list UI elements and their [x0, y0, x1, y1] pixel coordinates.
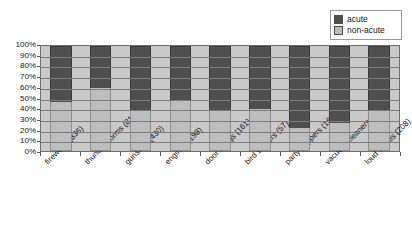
legend-label-non-acute: non-acute — [347, 26, 385, 35]
legend-swatch-non-acute — [334, 26, 343, 35]
legend-item-non-acute: non-acute — [334, 25, 397, 36]
stacked-bar[interactable] — [50, 46, 71, 151]
legend-label-acute: acute — [347, 15, 368, 24]
stacked-bar[interactable] — [289, 46, 310, 151]
y-axis-tick-label: 10% — [20, 137, 36, 145]
bar-segment-acute[interactable] — [130, 46, 151, 111]
bar-slot — [240, 46, 280, 151]
bar-segment-acute[interactable] — [368, 46, 389, 111]
bar-segment-non-acute[interactable] — [50, 102, 71, 151]
bar-segment-acute[interactable] — [329, 46, 350, 123]
bar-slot — [121, 46, 161, 151]
bar-segment-acute[interactable] — [170, 46, 191, 101]
bar-segment-non-acute[interactable] — [90, 88, 111, 151]
x-axis-labels: fireworks(836)thunderstorms (817)gunshot… — [0, 152, 411, 241]
legend-item-acute: acute — [334, 14, 397, 25]
y-axis-tick-label: 40% — [20, 105, 36, 113]
y-axis-tick-label: 60% — [20, 84, 36, 92]
bar-segment-non-acute[interactable] — [329, 123, 350, 151]
bar-segment-non-acute[interactable] — [209, 110, 230, 151]
bar-segment-acute[interactable] — [50, 46, 71, 102]
bar-slot — [41, 46, 81, 151]
y-axis-tick-label: 20% — [20, 127, 36, 135]
y-axis-tick-label: 30% — [20, 116, 36, 124]
legend-swatch-acute — [334, 15, 343, 24]
y-axis-tick-label: 50% — [20, 95, 36, 103]
bar-slot — [81, 46, 121, 151]
stacked-bar[interactable] — [170, 46, 191, 151]
bar-segment-non-acute[interactable] — [130, 111, 151, 151]
stacked-bar[interactable] — [209, 46, 230, 151]
y-axis-tick-label: 70% — [20, 73, 36, 81]
y-axis: 100%90%80%70%60%50%40%30%20%10%0% — [0, 40, 40, 157]
y-axis-tick-label: 100% — [16, 41, 36, 49]
stacked-bar[interactable] — [368, 46, 389, 151]
bar-group — [41, 46, 399, 151]
bar-slot — [160, 46, 200, 151]
bar-slot — [359, 46, 399, 151]
chart-legend: acute non-acute — [330, 10, 402, 40]
bar-slot — [200, 46, 240, 151]
plot-area — [40, 45, 400, 152]
bar-segment-acute[interactable] — [209, 46, 230, 110]
stacked-bar[interactable] — [329, 46, 350, 151]
stacked-bar[interactable] — [249, 46, 270, 151]
bar-segment-acute[interactable] — [289, 46, 310, 128]
bar-slot — [319, 46, 359, 151]
bar-segment-non-acute[interactable] — [170, 101, 191, 151]
stacked-bar[interactable] — [130, 46, 151, 151]
bar-segment-non-acute[interactable] — [289, 128, 310, 151]
bar-segment-non-acute[interactable] — [368, 111, 389, 151]
bar-segment-non-acute[interactable] — [249, 109, 270, 151]
bar-segment-acute[interactable] — [90, 46, 111, 88]
bar-segment-acute[interactable] — [249, 46, 270, 109]
stacked-bar[interactable] — [90, 46, 111, 151]
y-axis-tick-label: 80% — [20, 62, 36, 70]
y-axis-tick-label: 90% — [20, 52, 36, 60]
bar-slot — [280, 46, 320, 151]
